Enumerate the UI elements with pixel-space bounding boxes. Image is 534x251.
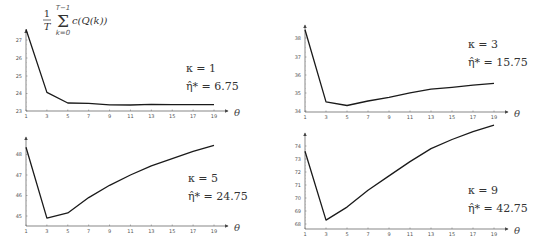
x-tick-label: 11: [127, 113, 133, 119]
kappa-annotation: κ = 9: [468, 184, 498, 197]
y-tick-label: 74: [295, 143, 301, 149]
x-tick-label: 19: [211, 113, 217, 119]
x-tick-label: 1: [24, 113, 27, 119]
y-tick-label: 35: [295, 90, 301, 96]
x-tick-label: 9: [108, 228, 111, 234]
svg-text:c(Q(k)): c(Q(k)): [72, 15, 108, 26]
y-tick-label: 45: [16, 213, 22, 219]
x-tick-label: 13: [428, 231, 434, 237]
y-tick-label: 47: [16, 172, 22, 178]
y-tick-label: 34: [295, 108, 301, 114]
y-tick-label: 27: [16, 37, 22, 43]
y-tick-label: 37: [295, 54, 301, 60]
x-axis-label: θ: [514, 108, 520, 119]
x-tick-label: 3: [45, 228, 48, 234]
y-tick-label: 72: [295, 169, 301, 175]
x-tick-label: 11: [127, 228, 133, 234]
series-line: [305, 30, 494, 106]
x-tick-label: 17: [190, 113, 196, 119]
x-tick-label: 11: [407, 231, 413, 237]
y-axis-label-formula: 1 T T−1 Σ k=0 c(Q(k)): [43, 4, 108, 37]
x-tick-label: 15: [169, 113, 175, 119]
eta-annotation: η̂* = 15.75: [468, 56, 528, 69]
x-tick-label: 19: [211, 228, 217, 234]
y-tick-label: 23: [16, 108, 22, 114]
x-tick-label: 17: [470, 114, 476, 120]
x-axis-label: θ: [234, 107, 240, 118]
eta-annotation: η̂* = 42.75: [468, 202, 528, 215]
chart-panel-3: 135791113151719θ45464748κ = 5η̂* = 24.75: [16, 137, 248, 234]
x-tick-label: 1: [24, 228, 27, 234]
x-tick-label: 9: [387, 114, 390, 120]
kappa-annotation: κ = 3: [468, 38, 498, 51]
kappa-annotation: κ = 5: [188, 172, 218, 185]
x-tick-label: 7: [366, 114, 369, 120]
x-tick-label: 15: [449, 231, 455, 237]
svg-text:1: 1: [44, 8, 50, 19]
y-tick-label: 71: [295, 182, 301, 188]
x-tick-label: 7: [366, 231, 369, 237]
x-axis-label: θ: [514, 225, 520, 236]
svg-text:T: T: [44, 21, 52, 32]
y-tick-label: 36: [295, 72, 301, 78]
svg-text:Σ: Σ: [57, 11, 69, 31]
x-tick-label: 7: [87, 113, 90, 119]
x-tick-label: 3: [324, 231, 327, 237]
figure-canvas: 1 T T−1 Σ k=0 c(Q(k)) 135791113151719θ23…: [0, 0, 534, 251]
y-tick-label: 24: [16, 90, 22, 96]
x-tick-label: 1: [303, 114, 306, 120]
x-tick-label: 19: [491, 231, 497, 237]
x-tick-label: 5: [345, 114, 348, 120]
y-tick-label: 48: [16, 151, 22, 157]
x-tick-label: 5: [66, 228, 69, 234]
y-tick-label: 38: [295, 35, 301, 41]
x-tick-label: 15: [169, 228, 175, 234]
x-tick-label: 5: [66, 113, 69, 119]
x-tick-label: 13: [428, 114, 434, 120]
x-tick-label: 3: [324, 114, 327, 120]
y-tick-label: 46: [16, 192, 22, 198]
x-axis-label: θ: [234, 222, 240, 233]
y-tick-label: 25: [16, 73, 22, 79]
x-tick-label: 9: [387, 231, 390, 237]
series-line: [305, 125, 494, 220]
x-tick-label: 3: [45, 113, 48, 119]
eta-annotation: η̂* = 24.75: [188, 190, 248, 203]
kappa-annotation: κ = 1: [186, 62, 216, 75]
x-tick-label: 5: [345, 231, 348, 237]
y-tick-label: 70: [295, 195, 301, 201]
x-tick-label: 1: [303, 231, 306, 237]
x-tick-label: 7: [87, 228, 90, 234]
x-tick-label: 15: [449, 114, 455, 120]
x-tick-label: 9: [108, 113, 111, 119]
eta-annotation: η̂* = 6.75: [186, 80, 239, 93]
x-tick-label: 17: [190, 228, 196, 234]
y-tick-label: 73: [295, 156, 301, 162]
x-tick-label: 17: [470, 231, 476, 237]
y-tick-label: 68: [295, 221, 301, 227]
chart-panel-2: 135791113151719θ3435363738κ = 3η̂* = 15.…: [295, 25, 528, 120]
y-tick-label: 26: [16, 55, 22, 61]
series-line: [26, 145, 214, 218]
y-tick-label: 69: [295, 208, 301, 214]
x-tick-label: 19: [491, 114, 497, 120]
chart-panel-1: 135791113151719θ2324252627κ = 1η̂* = 6.7…: [16, 29, 240, 119]
x-tick-label: 13: [148, 113, 154, 119]
x-tick-label: 11: [407, 114, 413, 120]
x-tick-label: 13: [148, 228, 154, 234]
svg-text:k=0: k=0: [56, 29, 71, 37]
chart-panel-4: 135791113151719θ68697071727374κ = 9η̂* =…: [295, 125, 528, 237]
